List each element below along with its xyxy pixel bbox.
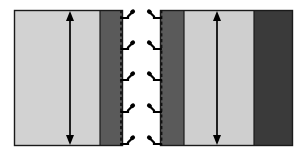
figure-canvas [0,0,307,159]
left-panel-dark-coating-layer [100,10,123,146]
right-panel-light-substrate-layer [184,10,254,146]
right-panel-dark-coating-outer-layer [254,10,293,146]
panel-left [14,9,136,146]
left-panel-light-substrate-layer [14,10,100,146]
right-panel-dark-coating-layer [160,10,184,146]
panel-right [146,9,293,146]
diagram-svg [0,0,307,159]
